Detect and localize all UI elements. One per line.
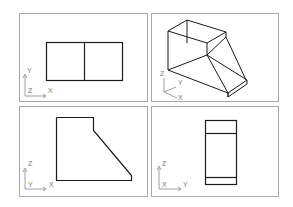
- ucs-axis-label: Z: [28, 87, 33, 94]
- ucs-axis-label: Y: [178, 79, 183, 86]
- side-view-geometry: [206, 121, 237, 185]
- front-view-geometry: [57, 118, 132, 181]
- drawing-canvas: Y Z X Z Y X Z Y X: [0, 0, 293, 207]
- ucs-icon-side: [157, 166, 181, 191]
- ucs-axis-label: X: [178, 94, 183, 101]
- ucs-axis-label: X: [49, 181, 54, 188]
- ucs-axis-label: X: [48, 87, 53, 94]
- ucs-axis-label: X: [162, 181, 167, 188]
- top-view-geometry: [47, 43, 123, 81]
- ucs-axis-label: Z: [28, 160, 33, 167]
- ucs-axis-label: Y: [27, 67, 32, 74]
- ucs-axis-label: Z: [160, 70, 165, 77]
- ucs-icon-isometric: [164, 78, 177, 98]
- ucs-icon-front: [23, 168, 46, 191]
- ucs-axis-label: Y: [28, 181, 33, 188]
- ucs-icon-top: [23, 74, 46, 98]
- ucs-axis-label: Z: [162, 160, 167, 167]
- ucs-axis-label: Y: [183, 181, 188, 188]
